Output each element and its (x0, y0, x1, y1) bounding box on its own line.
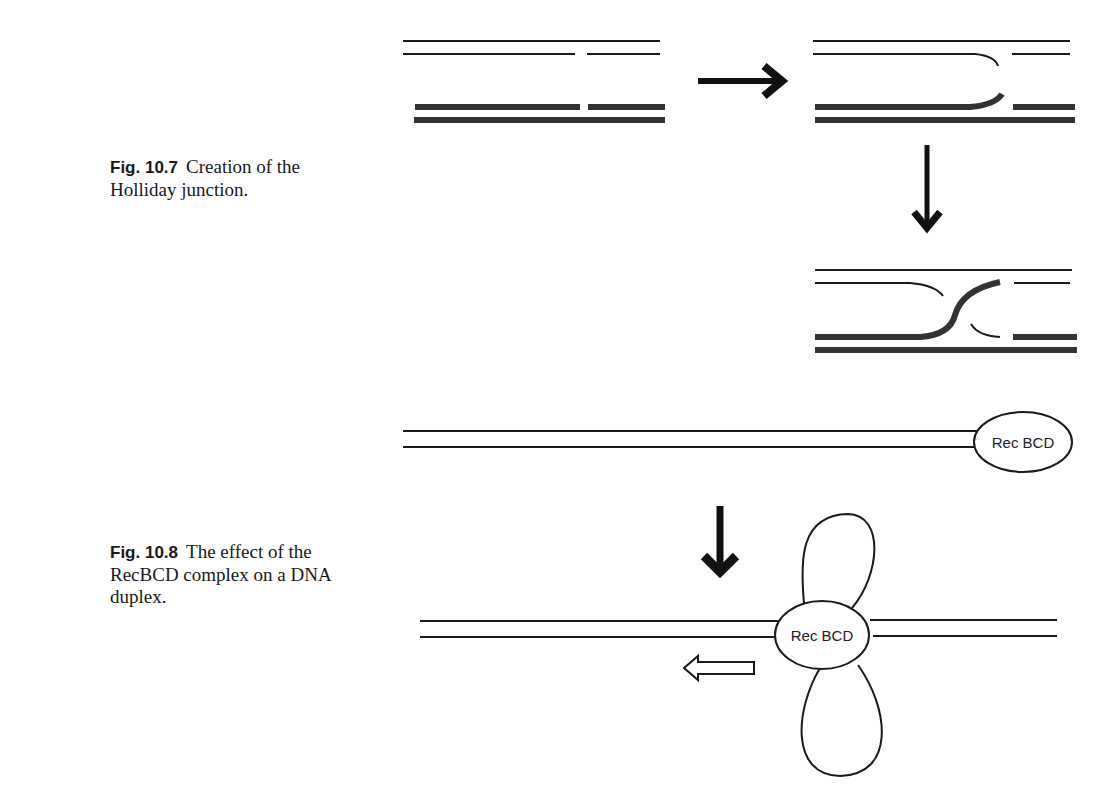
recbcd-label: Rec BCD (791, 627, 854, 644)
arrow-right-icon (698, 66, 782, 96)
panel-strand-invasion (813, 41, 1075, 120)
duplex-unwinding (420, 514, 1057, 776)
duplex-with-recbcd (403, 412, 1072, 472)
arrow-down-icon (704, 506, 736, 572)
arrow-down-icon (914, 145, 940, 228)
panel-nicked-duplexes (403, 41, 665, 120)
recbcd-label: Rec BCD (992, 434, 1055, 451)
diagram-canvas: Rec BCD Rec BCD (0, 0, 1095, 794)
panel-holliday-junction (815, 270, 1077, 350)
arrow-left-outline-icon (684, 656, 754, 680)
